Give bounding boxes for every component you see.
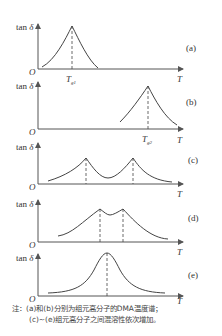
note-line-2: (c)~(e)组元高分子之间混溶性依次增加。 [0,314,222,325]
svg-text:O: O [29,240,36,250]
svg-text:T: T [177,135,183,145]
svg-text:O: O [29,67,36,77]
svg-text:tan δ: tan δ [16,253,34,263]
svg-text:(a): (a) [186,43,196,53]
svg-text:Tg1: Tg1 [66,74,76,85]
svg-text:tan δ: tan δ [16,142,34,152]
svg-text:(b): (b) [186,97,197,107]
svg-text:(d): (d) [188,213,199,223]
dma-diagram: tan δ O T (a) Tg1 tan δ O T (b) Tg2 tan … [0,0,222,336]
panel-e: tan δ O T (e) [16,253,198,306]
svg-text:Tg2: Tg2 [142,134,153,145]
svg-text:tan δ: tan δ [16,81,34,91]
note-line-1: 注：(a)和(b)分别为组元高分子的DMA温度谱； [0,303,222,314]
panel-c: tan δ O T (c) [16,142,198,199]
svg-text:O: O [29,127,36,137]
svg-text:tan δ: tan δ [16,22,34,32]
svg-text:(c): (c) [188,155,198,165]
panel-b: tan δ O T (b) Tg2 [16,81,197,145]
figure-note: 注：(a)和(b)分别为组元高分子的DMA温度谱； (c)~(e)组元高分子之间… [0,303,222,325]
svg-text:(e): (e) [188,270,198,280]
panel-d: tan δ O T (d) [16,199,199,257]
svg-text:T: T [177,247,183,257]
svg-text:tan δ: tan δ [16,199,34,209]
svg-text:T: T [177,189,183,199]
panel-a: tan δ O T (a) Tg1 [16,22,196,85]
svg-text:O: O [29,182,36,192]
svg-text:T: T [177,74,183,84]
